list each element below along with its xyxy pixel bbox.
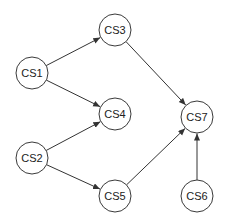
diagram-canvas: CS1CS2CS3CS4CS5CS6CS7 [0, 0, 245, 221]
node-label: CS7 [186, 111, 207, 123]
node-label: CS5 [104, 190, 125, 202]
edge-cs5-to-cs7 [127, 128, 186, 185]
node-label: CS4 [104, 108, 125, 120]
edge-cs1-to-cs4 [46, 80, 100, 107]
edge-cs2-to-cs4 [46, 122, 100, 151]
node-cs5: CS5 [99, 180, 131, 212]
node-label: CS6 [186, 190, 207, 202]
node-cs6: CS6 [181, 180, 213, 212]
node-label: CS3 [104, 24, 125, 36]
dependency-diagram: CS1CS2CS3CS4CS5CS6CS7 [0, 0, 245, 221]
node-cs3: CS3 [99, 14, 131, 46]
node-cs2: CS2 [16, 142, 48, 174]
edge-cs2-to-cs5 [47, 165, 101, 189]
node-label: CS1 [21, 67, 42, 79]
nodes-layer: CS1CS2CS3CS4CS5CS6CS7 [16, 14, 213, 212]
edge-cs3-to-cs7 [126, 42, 186, 105]
node-label: CS2 [21, 152, 42, 164]
node-cs1: CS1 [16, 57, 48, 89]
node-cs4: CS4 [99, 98, 131, 130]
node-cs7: CS7 [181, 101, 213, 133]
edge-cs1-to-cs3 [46, 38, 100, 66]
